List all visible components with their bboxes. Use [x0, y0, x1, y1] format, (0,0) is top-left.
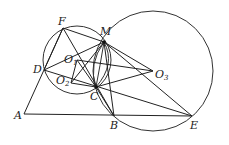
label-b: B	[109, 119, 118, 132]
label-o2: O2	[56, 74, 70, 88]
label-o3: O3	[155, 68, 169, 82]
geometry-diagram: A B C D E F M O1 O2 O3	[0, 0, 229, 145]
segment-me	[104, 42, 192, 116]
segment-de	[44, 70, 192, 116]
label-c: C	[90, 90, 99, 103]
segment-o1o3	[77, 60, 153, 71]
segment-ae	[24, 114, 192, 116]
point-m	[102, 40, 106, 44]
segment-mo3	[104, 42, 153, 71]
label-e: E	[189, 119, 198, 132]
label-a: A	[13, 109, 22, 122]
segment-fm	[63, 28, 104, 42]
label-d: D	[32, 63, 42, 76]
segment-fd	[44, 28, 63, 70]
label-m: M	[99, 25, 112, 38]
label-f: F	[57, 15, 66, 28]
point-c	[94, 85, 98, 89]
